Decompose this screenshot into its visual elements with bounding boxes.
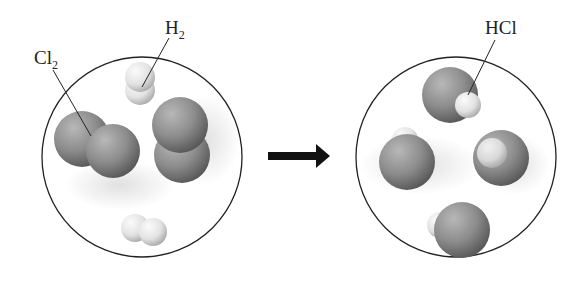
reaction-arrow — [268, 144, 330, 168]
products-container: HCl — [356, 17, 556, 258]
hcl-label: HCl — [485, 17, 517, 38]
h2-label: H2 — [165, 17, 185, 42]
reaction-diagram: Cl2 H2 HCl — [0, 0, 588, 284]
h2-molecule-top — [125, 62, 155, 105]
reactants-container: Cl2 H2 — [34, 17, 242, 257]
hcl-molecule-right — [473, 130, 529, 186]
cl2-label: Cl2 — [34, 47, 58, 72]
cl2-molecule-right — [152, 97, 210, 183]
